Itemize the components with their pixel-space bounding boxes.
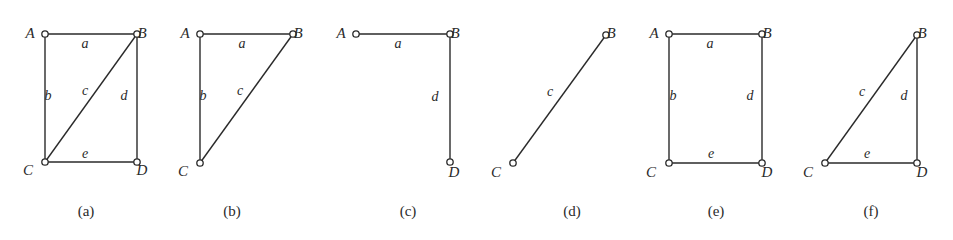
panel-caption: (d) <box>563 203 581 220</box>
edge-label-d: d <box>747 88 755 103</box>
panel-caption: (c) <box>400 203 417 220</box>
vertex-label-D: D <box>448 164 460 180</box>
edge-label-d: d <box>121 88 129 103</box>
vertex-A-node-icon <box>353 31 359 37</box>
vertex-C-node-icon <box>822 160 828 166</box>
vertex-C-node-icon <box>197 160 203 166</box>
vertex-label-C: C <box>803 164 814 180</box>
edge-label-b: b <box>45 88 52 103</box>
vertex-label-B: B <box>762 25 771 41</box>
edge-label-d: d <box>901 88 909 103</box>
panel-caption: (a) <box>78 203 95 220</box>
vertex-C-node-icon <box>42 159 48 165</box>
vertex-label-B: B <box>137 25 146 41</box>
vertex-label-D: D <box>136 162 148 178</box>
vertex-label-C: C <box>646 164 657 180</box>
edge-label-d: d <box>432 89 440 104</box>
edge-label-a: a <box>82 36 89 51</box>
vertex-C-node-icon <box>666 160 672 166</box>
panel-caption: (f) <box>864 203 879 220</box>
vertex-A-node-icon <box>197 31 203 37</box>
vertex-label-D: D <box>761 164 773 180</box>
panel-caption: (b) <box>223 203 241 220</box>
edge-label-b: b <box>670 88 677 103</box>
edge-c <box>200 34 293 163</box>
edge-label-a: a <box>239 36 246 51</box>
vertex-label-B: B <box>293 25 302 41</box>
edge-label-b: b <box>200 88 207 103</box>
edge-label-e: e <box>82 146 88 161</box>
vertex-label-A: A <box>179 25 190 41</box>
vertex-label-B: B <box>917 25 926 41</box>
vertex-A-node-icon <box>666 31 672 37</box>
edge-c <box>513 35 606 163</box>
vertex-label-C: C <box>178 163 189 179</box>
panel-e: abdeABCD(e) <box>646 25 773 220</box>
vertex-label-A: A <box>335 25 346 41</box>
vertex-label-D: D <box>916 164 928 180</box>
panel-c: adABD(c) <box>335 25 459 220</box>
vertex-C-node-icon <box>510 160 516 166</box>
vertex-label-B: B <box>606 25 615 41</box>
vertex-label-A: A <box>648 25 659 41</box>
edge-label-e: e <box>708 146 714 161</box>
panel-d: cBC(d) <box>491 25 616 220</box>
edge-label-a: a <box>707 36 714 51</box>
edge-label-e: e <box>864 146 870 161</box>
vertex-label-C: C <box>491 164 502 180</box>
edge-label-a: a <box>395 36 402 51</box>
edge-label-c: c <box>237 83 244 98</box>
edge-label-c: c <box>547 84 554 99</box>
panel-a: abcdeABCD(a) <box>23 25 148 220</box>
vertex-label-B: B <box>450 25 459 41</box>
subgraph-figure: abcdeABCD(a)abcABC(b)adABD(c)cBC(d)abdeA… <box>0 0 953 240</box>
figure-svg: abcdeABCD(a)abcABC(b)adABD(c)cBC(d)abdeA… <box>0 0 953 240</box>
vertex-A-node-icon <box>42 31 48 37</box>
vertex-label-C: C <box>23 162 34 178</box>
panel-f: cdeBCD(f) <box>803 25 928 220</box>
edge-label-c: c <box>859 84 866 99</box>
panel-b: abcABC(b) <box>178 25 303 220</box>
vertex-label-A: A <box>24 25 35 41</box>
edge-label-c: c <box>82 83 89 98</box>
panel-caption: (e) <box>708 203 725 220</box>
